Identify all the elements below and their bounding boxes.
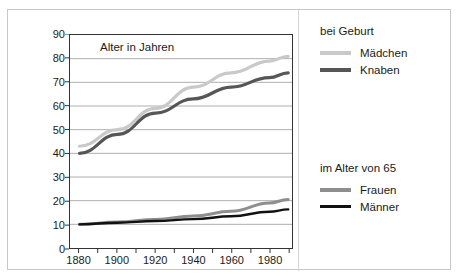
top-cut-off-text (0, 0, 458, 8)
chart-region: 0102030405060708090 Alter in Jahren 1880… (8, 10, 298, 271)
legend-swatch-maenner (320, 205, 351, 208)
legend-label-maedchen: Mädchen (360, 47, 407, 59)
legend-item-knaben: Knaben (320, 61, 450, 78)
x-tick-label-1920: 1920 (143, 254, 167, 267)
legend-group-bei-geburt: bei Geburt Mädchen Knaben (320, 25, 450, 78)
figure-frame: 0102030405060708090 Alter in Jahren 1880… (7, 9, 451, 270)
legend-item-maenner: Männer (320, 198, 450, 215)
x-axis-tick-labels: 188019001920194019601980 (69, 254, 293, 270)
x-tick-label-1980: 1980 (258, 254, 282, 267)
legend-label-maenner: Männer (360, 201, 399, 213)
legend-swatch-frauen (320, 188, 351, 192)
axis-tick-marks (35, 34, 297, 266)
legend-label-knaben: Knaben (360, 64, 400, 76)
x-tick-label-1940: 1940 (181, 254, 205, 267)
x-tick-label-1960: 1960 (219, 254, 243, 267)
legend-item-maedchen: Mädchen (320, 44, 450, 61)
legend-swatch-maedchen (320, 51, 351, 55)
x-tick-label-1880: 1880 (66, 254, 90, 267)
legend-group-im-alter-von-65: im Alter von 65 Frauen Männer (320, 162, 450, 215)
legend-heading-bei-geburt: bei Geburt (320, 25, 450, 37)
legend-item-frauen: Frauen (320, 181, 450, 198)
legend-label-frauen: Frauen (360, 184, 396, 196)
legend-region: bei Geburt Mädchen Knaben im Alter von 6… (298, 10, 451, 271)
x-tick-label-1900: 1900 (105, 254, 129, 267)
legend-heading-im-alter-von-65: im Alter von 65 (320, 162, 450, 174)
legend-swatch-knaben (320, 68, 351, 72)
